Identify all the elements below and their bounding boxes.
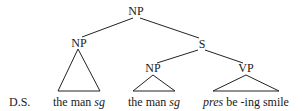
triangle-vp: [213, 75, 279, 91]
leaf-left-text: the man: [53, 95, 94, 109]
leaf-middle: the man sg: [128, 96, 180, 108]
node-subject-np: NP: [145, 62, 160, 74]
edge-root-to-s: [140, 18, 199, 38]
node-root-np: NP: [128, 5, 143, 17]
edge-s-to-vp: [205, 50, 243, 63]
node-vp: VP: [238, 62, 253, 74]
edge-root-to-left-np: [82, 18, 133, 37]
edge-s-to-np: [157, 50, 198, 63]
leaf-middle-feature: sg: [169, 95, 180, 109]
node-s: S: [199, 38, 206, 50]
triangle-subject-np: [133, 75, 175, 91]
triangle-left-np: [58, 49, 100, 91]
deep-structure-label: D.S.: [9, 96, 30, 108]
leaf-left-feature: sg: [94, 95, 105, 109]
node-left-np: NP: [71, 37, 86, 49]
leaf-left: the man sg: [53, 96, 105, 108]
leaf-middle-text: the man: [128, 95, 169, 109]
leaf-right-tense: pres: [203, 95, 223, 109]
leaf-right-text: be -ing smile: [223, 95, 289, 109]
leaf-right: pres be -ing smile: [203, 96, 289, 108]
